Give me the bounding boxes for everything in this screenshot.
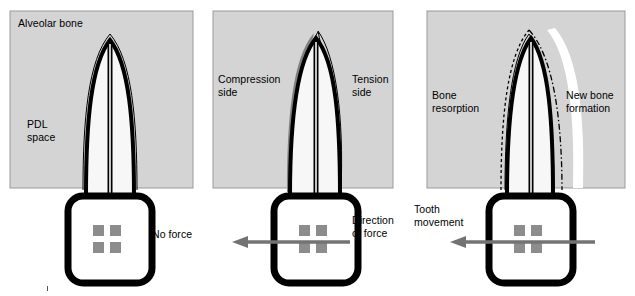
tooth-crown	[68, 196, 152, 283]
bracket-square	[299, 225, 310, 236]
bracket-square	[110, 242, 121, 253]
bracket-square	[93, 225, 104, 236]
alveolar-bone-label: Alveolar bone	[18, 17, 83, 30]
panel-no-force-graphic	[0, 0, 210, 296]
bracket-square	[316, 225, 327, 236]
bone-resorption-label: Bone resorption	[432, 89, 479, 114]
no-force-label: No force	[152, 228, 192, 241]
panel-no-force: Alveolar bone PDL space No force	[0, 0, 210, 296]
bracket-square	[93, 242, 104, 253]
orthodontic-tooth-movement-diagram: Alveolar bone PDL space No force	[0, 0, 635, 296]
panel-force-applied-graphic	[210, 0, 423, 296]
panel-bone-remodeling: Bone resorption New bone formation	[423, 0, 635, 296]
panel-bone-remodeling-graphic	[423, 0, 635, 296]
tooth-crown	[489, 196, 573, 283]
pdl-space-label: PDL space	[27, 118, 55, 143]
bracket-square	[514, 225, 525, 236]
compression-side-label: Compression side	[218, 73, 280, 98]
tooth-crown	[274, 196, 358, 283]
stray-tick-mark	[47, 286, 48, 291]
direction-of-force-label: Direction of force	[352, 214, 394, 239]
tooth-movement-label: Tooth movement	[414, 203, 463, 228]
new-bone-formation-label: New bone formation	[566, 89, 614, 114]
panel-force-applied: Compression side Tension side Direction …	[210, 0, 423, 296]
tension-side-label: Tension side	[352, 73, 389, 98]
bracket-square	[110, 225, 121, 236]
bracket-square	[531, 225, 542, 236]
